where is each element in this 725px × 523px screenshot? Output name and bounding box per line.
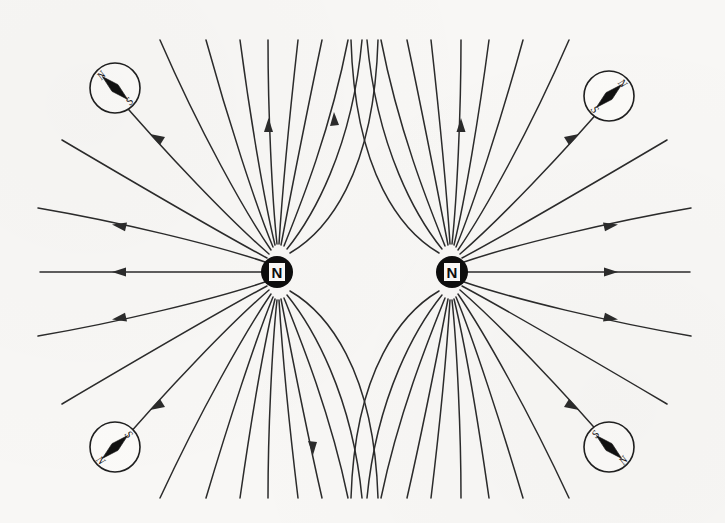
arrowhead-icon	[564, 134, 579, 145]
field-line	[464, 208, 691, 262]
field-line	[62, 286, 267, 404]
compass-top-left: N S	[90, 63, 140, 113]
arrowhead-icon	[150, 134, 165, 145]
field-line	[279, 40, 298, 244]
arrowhead-icon	[330, 112, 339, 126]
pole-label: N	[447, 264, 458, 281]
field-line	[206, 297, 273, 498]
arrowhead-icon	[604, 268, 618, 277]
field-line	[464, 282, 691, 336]
arrowhead-icon	[112, 268, 126, 277]
left-pole-field-lines	[38, 40, 378, 498]
arrowhead-icon	[457, 118, 466, 132]
field-line	[462, 286, 667, 404]
right-pole-field-lines	[351, 40, 691, 498]
field-line	[38, 282, 265, 336]
field-line-diagram: N N N S N S S N S	[0, 0, 725, 523]
field-line	[456, 297, 523, 498]
field-line	[290, 40, 378, 253]
field-line	[367, 295, 442, 498]
pole-label: N	[272, 264, 283, 281]
field-line	[431, 40, 450, 244]
arrowhead-icon	[564, 399, 579, 410]
field-line	[268, 40, 277, 244]
field-line	[452, 300, 461, 498]
arrowhead-icon	[264, 118, 273, 132]
field-line	[38, 208, 265, 262]
compass-bottom-right: S N	[584, 422, 634, 472]
compass-bottom-left: S N	[90, 422, 140, 472]
field-line	[279, 300, 298, 498]
field-line	[287, 40, 362, 249]
arrowhead-icon	[112, 223, 127, 232]
arrowhead-icon	[603, 313, 618, 322]
field-line	[287, 295, 362, 498]
right-pole: N	[436, 256, 468, 288]
field-line	[456, 40, 523, 247]
left-pole: N	[261, 256, 293, 288]
field-line	[351, 40, 439, 253]
arrowhead-icon	[308, 441, 317, 455]
magnetic-field-figure: N N N S N S S N S	[0, 0, 725, 523]
field-line	[62, 140, 267, 258]
arrowhead-icon	[150, 399, 165, 410]
arrowhead-icon	[112, 313, 127, 322]
arrowhead-icon	[603, 223, 618, 232]
field-line	[431, 300, 450, 498]
field-line	[452, 40, 461, 244]
field-line	[206, 40, 273, 247]
field-line	[290, 291, 378, 498]
field-line	[351, 291, 439, 498]
field-line	[462, 140, 667, 258]
compass-top-right: N S	[584, 71, 634, 121]
field-line	[367, 40, 442, 249]
field-line	[268, 300, 277, 498]
